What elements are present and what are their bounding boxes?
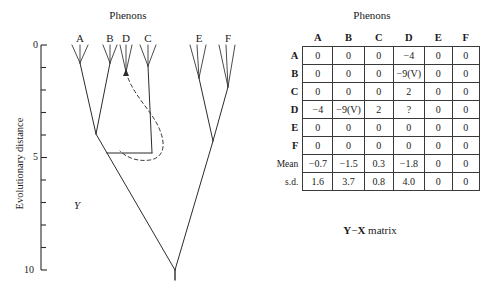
matrix-cell-c-a: 0	[303, 83, 333, 101]
branch-c-down	[148, 66, 152, 153]
matrix-cell-c-b: 0	[333, 83, 364, 101]
matrix-cell-mean-b: −1.5	[333, 155, 364, 173]
branch-left-cluster-stem	[96, 134, 107, 153]
matrix-row-header-b: B	[275, 65, 303, 83]
matrix-cell-a-f: 0	[452, 47, 479, 65]
table-row: C 0 0 0 2 0 0	[275, 83, 480, 101]
matrix-col-header-a: A	[303, 30, 333, 47]
matrix-cell-mean-d: −1.8	[393, 155, 424, 173]
dendrogram-panel: Phenons Evolutionary distance 0 5 10 A B…	[0, 0, 250, 287]
matrix-cell-a-d: −4	[393, 47, 424, 65]
table-row: A 0 0 0 −4 0 0	[275, 47, 480, 65]
matrix-col-header-d: D	[393, 30, 424, 47]
matrix-panel: Phenons A B C D E F A	[250, 0, 480, 287]
branch-f-down	[213, 87, 228, 141]
matrix-cell-c-d: 2	[393, 83, 424, 101]
matrix-cell-e-b: 0	[333, 119, 364, 137]
matrix-cell-d-a: −4	[303, 101, 333, 119]
leaf-tuft-b	[103, 45, 117, 63]
matrix-row-header-e: E	[275, 119, 303, 137]
matrix-col-header-e: E	[425, 30, 453, 47]
matrix-caption-word: matrix	[368, 224, 397, 236]
matrix-row-header-a: A	[275, 47, 303, 65]
matrix-cell-c-f: 0	[452, 83, 479, 101]
leaf-tuft-d	[120, 45, 132, 72]
matrix-corner-cell	[275, 30, 303, 47]
leaf-tuft-f	[219, 45, 235, 87]
matrix-cell-sd-f: 0	[452, 173, 479, 191]
matrix-cell-d-f: 0	[452, 101, 479, 119]
matrix-cell-f-c: 0	[364, 137, 393, 155]
matrix-cell-b-f: 0	[452, 65, 479, 83]
branch-a-down	[80, 63, 96, 134]
dendrogram-graphic	[0, 0, 250, 287]
branch-b-down	[96, 63, 110, 134]
matrix-cell-d-e: 0	[425, 101, 453, 119]
matrix-cell-a-e: 0	[425, 47, 453, 65]
matrix-col-header-c: C	[364, 30, 393, 47]
leaf-tuft-c	[140, 45, 156, 66]
matrix-cell-f-f: 0	[452, 137, 479, 155]
matrix-row-header-c: C	[275, 83, 303, 101]
matrix-cell-sd-a: 1.6	[303, 173, 333, 191]
matrix-cell-f-d: 0	[393, 137, 424, 155]
matrix-header-row: A B C D E F	[275, 30, 480, 47]
d-node-arrowhead	[123, 69, 129, 76]
matrix-cell-d-b: −9(V)	[333, 101, 364, 119]
matrix-cell-d-d: ?	[393, 101, 424, 119]
dashed-reticulation-curve	[120, 72, 163, 160]
matrix-cell-c-e: 0	[425, 83, 453, 101]
matrix-cell-e-f: 0	[452, 119, 479, 137]
matrix-cell-a-b: 0	[333, 47, 364, 65]
matrix-col-header-b: B	[333, 30, 364, 47]
matrix-cell-a-c: 0	[364, 47, 393, 65]
matrix-cell-mean-a: −0.7	[303, 155, 333, 173]
leaf-tuft-e	[190, 45, 206, 78]
matrix-cell-sd-d: 4.0	[393, 173, 424, 191]
table-row: F 0 0 0 0 0 0	[275, 137, 480, 155]
matrix-cell-b-c: 0	[364, 65, 393, 83]
matrix-cell-f-b: 0	[333, 137, 364, 155]
leaf-tuft-a	[72, 45, 88, 63]
matrix-caption-x: X	[357, 224, 365, 236]
table-row: D −4 −9(V) 2 ? 0 0	[275, 101, 480, 119]
matrix-cell-sd-b: 3.7	[333, 173, 364, 191]
matrix-cell-sd-c: 0.8	[364, 173, 393, 191]
matrix-cell-e-d: 0	[393, 119, 424, 137]
table-row: E 0 0 0 0 0 0	[275, 119, 480, 137]
matrix-cell-b-e: 0	[425, 65, 453, 83]
table-row: s.d. 1.6 3.7 0.8 4.0 0 0	[275, 173, 480, 191]
matrix-cell-f-e: 0	[425, 137, 453, 155]
matrix-row-header-mean: Mean	[275, 155, 303, 173]
matrix-title: Phenons	[353, 9, 390, 21]
matrix-caption-y: Y	[343, 224, 351, 236]
matrix-col-header-f: F	[452, 30, 479, 47]
matrix-row-header-sd: s.d.	[275, 173, 303, 191]
matrix-cell-f-a: 0	[303, 137, 333, 155]
branch-left-group-to-root	[107, 153, 175, 270]
branch-e-down	[199, 78, 213, 141]
matrix-row-header-f: F	[275, 137, 303, 155]
matrix-cell-b-d: −9(V)	[393, 65, 424, 83]
matrix-cell-b-b: 0	[333, 65, 364, 83]
matrix-cell-mean-f: 0	[452, 155, 479, 173]
y-axis	[41, 45, 47, 270]
matrix-table-wrap: A B C D E F A 0 0 0 −4 0	[275, 30, 480, 191]
matrix-caption: Y−X matrix	[343, 224, 397, 236]
matrix-cell-mean-e: 0	[425, 155, 453, 173]
matrix-cell-c-c: 0	[364, 83, 393, 101]
matrix-cell-e-a: 0	[303, 119, 333, 137]
figure-root: Phenons Evolutionary distance 0 5 10 A B…	[0, 0, 480, 287]
table-row: Mean −0.7 −1.5 0.3 −1.8 0 0	[275, 155, 480, 173]
matrix-cell-e-c: 0	[364, 119, 393, 137]
y-x-matrix-table: A B C D E F A 0 0 0 −4 0	[275, 30, 480, 191]
matrix-cell-mean-c: 0.3	[364, 155, 393, 173]
matrix-row-header-d: D	[275, 101, 303, 119]
branch-right-group-to-root	[175, 141, 213, 270]
matrix-cell-a-a: 0	[303, 47, 333, 65]
matrix-cell-e-e: 0	[425, 119, 453, 137]
matrix-cell-sd-e: 0	[425, 173, 453, 191]
table-row: B 0 0 0 −9(V) 0 0	[275, 65, 480, 83]
matrix-cell-b-a: 0	[303, 65, 333, 83]
matrix-cell-d-c: 2	[364, 101, 393, 119]
